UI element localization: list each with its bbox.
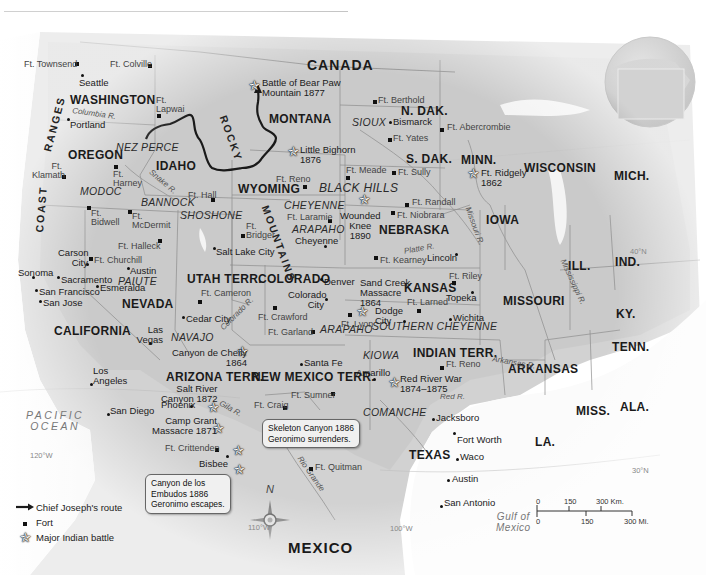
country-label-mexico: MEXICO <box>288 540 353 556</box>
fort-sully: Ft. Sully <box>398 168 431 177</box>
state-minnesota: MINN. <box>461 154 497 167</box>
fort-bidwell: Ft. Bidwell <box>91 209 121 228</box>
legend-item-battle: ✯ Major Indian battle <box>14 530 122 545</box>
fort-kearney: Ft. Kearney <box>380 256 427 265</box>
battle-salt-river-canyon: Salt RiverCanyon 1872 <box>161 384 218 404</box>
state-idaho: IDAHO <box>156 160 196 173</box>
fort-mcdermit: Ft. McDermit <box>132 212 174 231</box>
city-bismarck: Bismarck <box>393 117 432 127</box>
state-iowa: IOWA <box>486 214 519 227</box>
callout-canyon-de-los-embudos: Canyon de losEmbudos 1886Geronimo escape… <box>145 474 231 514</box>
battle-red-river-war: Red River War1874–1875 <box>400 374 462 394</box>
fort-niobrara: Ft. Niobrara <box>397 211 445 220</box>
fort-riley: Ft. Riley <box>449 272 482 281</box>
state-wisconsin: WISCONSIN <box>524 162 596 175</box>
state-nebraska: NEBRASKA <box>379 224 449 237</box>
fort-harney: Ft. Harney <box>113 170 141 189</box>
city-las-vegas: Las Vegas <box>133 325 163 345</box>
fort-square-icon <box>303 185 307 189</box>
city-seattle: Seattle <box>79 78 109 88</box>
city-cheyenne: Cheyenne <box>295 236 338 246</box>
battle-star-icon: ✯ <box>249 79 260 92</box>
map-legend: Chief Joseph's route Fort ✯ Major Indian… <box>14 500 122 545</box>
city-waco: Waco <box>460 452 484 462</box>
state-alabama: ALA. <box>620 401 649 414</box>
fort-square-icon <box>309 467 313 471</box>
city-marker <box>449 318 452 321</box>
state-indian-terr: INDIAN TERR. <box>413 347 497 360</box>
city-marker <box>96 285 99 288</box>
scale-mi-0: 0 <box>536 517 540 526</box>
state-mississippi: MISS. <box>576 405 610 418</box>
battle-star-icon: ✯ <box>389 376 400 389</box>
battle-ft-ridgely: Ft. Ridgely1862 <box>481 168 526 188</box>
fort-square-icon <box>273 306 277 310</box>
fort-quitman: Ft. Quitman <box>315 463 362 472</box>
fort-square-icon <box>373 100 377 104</box>
longitude-120w: 120°W <box>30 452 53 460</box>
legend-item-route: Chief Joseph's route <box>14 500 122 515</box>
battle-star-icon: ✯ <box>468 167 479 180</box>
fort-bridger: Ft. Bridger <box>246 222 276 241</box>
city-colorado-city: Colorado City <box>288 290 324 310</box>
fort-hall: Ft. Hall <box>188 191 217 200</box>
state-wyoming: WYOMING <box>238 183 300 196</box>
state-tennessee: TENN. <box>612 341 650 354</box>
tribe-comanche: COMANCHE <box>363 407 427 418</box>
city-marker <box>456 458 459 461</box>
ocean-label-gulf: Gulf ofMexico <box>496 512 531 533</box>
city-marker <box>182 316 185 319</box>
fort-crittenden: Ft. Crittenden <box>165 444 220 453</box>
fort-square-icon <box>89 257 93 261</box>
city-austin-tx: Austin <box>452 474 478 484</box>
battle-star-icon: ✯ <box>234 463 245 476</box>
state-washington: WASHINGTON <box>70 94 155 107</box>
fort-churchill: Ft. Churchill <box>94 256 142 265</box>
fort-garland: Ft. Garland <box>268 328 313 337</box>
battle-star-icon: ✯ <box>14 530 36 545</box>
scale-mi-300: 300 Mi. <box>624 517 649 526</box>
fort-colville: Ft. Colville <box>110 60 152 69</box>
ocean-label-pacific: PACIFICOCEAN <box>26 410 84 432</box>
city-jacksboro: Jacksboro <box>436 413 479 423</box>
city-esmeralda: Esmeralda <box>100 283 145 293</box>
state-california: CALIFORNIA <box>54 325 131 338</box>
city-cedar-city: Cedar City <box>186 314 231 324</box>
scale-km-300: 300 Km. <box>596 497 624 506</box>
compass-north-label: N <box>266 484 274 496</box>
fort-square-icon <box>392 171 396 175</box>
city-dodge-city: Dodge City <box>375 306 403 326</box>
arrow-route-icon <box>14 502 36 513</box>
state-missouri: MISSOURI <box>503 295 565 308</box>
country-label-canada: CANADA <box>307 58 374 73</box>
city-marker <box>320 278 323 281</box>
fort-square-icon <box>241 234 245 238</box>
tribe-sioux: SIOUX <box>352 117 386 128</box>
callout-skeleton-canyon: Skeleton Canyon 1886Geronimo surrenders. <box>262 419 360 448</box>
battle-sand-creek: Sand CreekMassacre1864 <box>360 278 410 308</box>
city-marker <box>57 276 60 279</box>
state-oregon: OREGON <box>68 149 123 162</box>
tribe-bannock: BANNOCK <box>141 197 195 208</box>
city-denver: Denver <box>324 277 355 287</box>
state-kentucky: KY. <box>616 308 636 321</box>
city-marker <box>447 479 450 482</box>
battle-little-bighorn: Little Bighorn1876 <box>300 145 355 165</box>
tribe-navajo: NAVAJO <box>171 332 214 343</box>
state-utah-terr: UTAH TERR. <box>187 273 262 286</box>
battle-bear-paw: Battle of Bear PawMountain 1877 <box>262 78 341 98</box>
city-amarillo: Amarillo <box>356 368 390 378</box>
city-los-angeles: Los Angeles <box>93 366 127 386</box>
longitude-100w: 100°W <box>390 525 413 533</box>
fort-abercrombie: Ft. Abercrombie <box>447 123 511 132</box>
city-san-jose: San Jose <box>43 298 83 308</box>
longitude-110w: 110°W <box>248 524 270 532</box>
tribe-nez-perce: NEZ PERCE <box>116 142 179 153</box>
fort-square-icon <box>452 281 456 285</box>
fort-square-icon <box>391 211 395 215</box>
battle-star-icon: ✯ <box>359 193 370 206</box>
scale-km-0: 0 <box>536 497 540 506</box>
latitude-30n: 30°N <box>632 467 649 475</box>
city-marker <box>453 432 456 435</box>
state-michigan: MICH. <box>614 170 650 183</box>
